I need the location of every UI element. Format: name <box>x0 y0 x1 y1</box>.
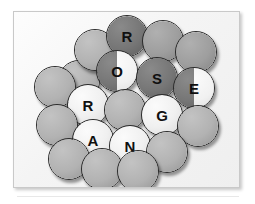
screenshot-root: ROSERGAN <box>0 0 255 204</box>
disc-letter-glyph: S <box>152 71 162 86</box>
disc-letter-glyph: E <box>189 81 199 96</box>
disc-letter-glyph: G <box>156 108 168 123</box>
disc-letter-glyph: R <box>83 98 94 113</box>
caption-divider <box>17 196 239 197</box>
disc-letter-glyph: O <box>111 64 123 79</box>
disc-face <box>105 90 145 130</box>
disc-cluster: ROSERGAN <box>14 12 240 188</box>
disc-face <box>118 151 158 188</box>
disc-letter-o[interactable]: O <box>96 50 138 92</box>
disc-letter-glyph: R <box>122 29 133 44</box>
disc-letter-s[interactable]: S <box>136 57 178 99</box>
image-card: ROSERGAN <box>13 11 240 188</box>
disc-blank[interactable] <box>117 150 159 188</box>
disc-face <box>176 32 216 72</box>
disc-letter-glyph: A <box>88 133 99 148</box>
disc-face <box>82 149 122 188</box>
